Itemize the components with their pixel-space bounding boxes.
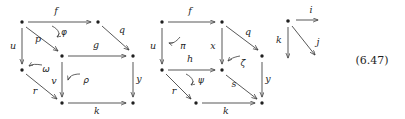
vertex-dot: [286, 19, 290, 23]
edge-label-s: s: [232, 78, 237, 89]
two-cell-arc-pi: [169, 37, 180, 43]
two-cell-label-omega: ω: [42, 64, 50, 74]
vertex-dot: [220, 68, 223, 71]
edge-label-r: r: [33, 85, 39, 96]
two-cell-arc-psi: [186, 74, 193, 85]
edge-label-h: h: [187, 53, 193, 64]
edge-label-y: y: [135, 73, 142, 84]
diagram-middle: f q u x h y r s k π ψ ζ: [150, 5, 271, 116]
equation-number: (6.47): [355, 54, 388, 67]
edge-label-i: i: [309, 4, 312, 15]
edge-q: [226, 26, 258, 50]
edge-label-u: u: [150, 40, 156, 51]
edge-p: [26, 27, 58, 51]
figure-root: f q u p g v y r k φ ω ρ: [0, 0, 405, 119]
two-cell-label-rho: ρ: [83, 75, 89, 85]
vertex-dot: [60, 54, 63, 57]
edge-label-g: g: [93, 39, 99, 50]
edge-label-f: f: [53, 5, 59, 16]
edge-label-q: q: [245, 26, 251, 37]
edge-r: [166, 74, 191, 99]
two-cell-label-pi: π: [180, 41, 186, 51]
edge-label-k: k: [94, 105, 100, 116]
vertex-dot: [160, 68, 163, 71]
two-cell-label-psi: ψ: [198, 75, 205, 85]
edge-label-r: r: [172, 85, 178, 96]
edge-label-p: p: [35, 33, 41, 44]
edge-label-v: v: [51, 75, 57, 86]
edge-label-u: u: [10, 40, 16, 51]
vertex-dot: [194, 101, 197, 104]
vertex-dot: [20, 68, 23, 71]
two-cell-arc-zeta: [228, 56, 240, 61]
commutative-diagram-canvas: f q u p g v y r k φ ω ρ: [0, 0, 405, 119]
vertex-dot: [260, 54, 263, 57]
two-cell-label-zeta: ζ: [240, 58, 247, 68]
vertex-dot: [131, 54, 134, 57]
vertex-dot: [20, 20, 23, 23]
vertex-dot: [260, 101, 263, 104]
edge-label-f: f: [187, 5, 193, 16]
two-cell-arc-phi: [52, 26, 59, 37]
diagram-right: i k j: [276, 4, 319, 58]
edge-label-k: k: [223, 105, 229, 116]
edge-label-x: x: [210, 40, 216, 51]
vertex-dot: [60, 101, 63, 104]
two-cell-label-phi: φ: [61, 27, 67, 37]
diagram-left: f q u p g v y r k φ ω ρ: [10, 5, 142, 116]
vertex-dot: [96, 20, 99, 23]
edge-label-j: j: [315, 36, 320, 47]
vertex-dot: [220, 20, 223, 23]
vertex-dot: [131, 101, 134, 104]
edge-label-q: q: [119, 24, 125, 35]
two-cell-arc-rho: [68, 74, 80, 80]
edge-label-y: y: [264, 73, 271, 84]
edge-label-k: k: [276, 34, 282, 45]
two-cell-arc-omega: [29, 64, 42, 66]
vertex-dot: [160, 20, 163, 23]
edge-j: [292, 26, 315, 55]
